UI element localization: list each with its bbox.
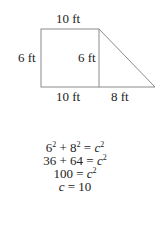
triangle-shape [99, 29, 155, 87]
label-top-10ft: 10 ft [56, 12, 80, 25]
equation-4: c = 10 [0, 180, 150, 193]
label-left-6ft: 6 ft [18, 51, 36, 64]
label-bottom-8ft: 8 ft [111, 90, 129, 103]
label-inner-6ft: 6 ft [78, 51, 96, 64]
equations: 62 + 82 = c2 36 + 64 = c2 100 = c2 c = 1… [0, 141, 150, 193]
label-bottom-10ft: 10 ft [56, 90, 80, 103]
